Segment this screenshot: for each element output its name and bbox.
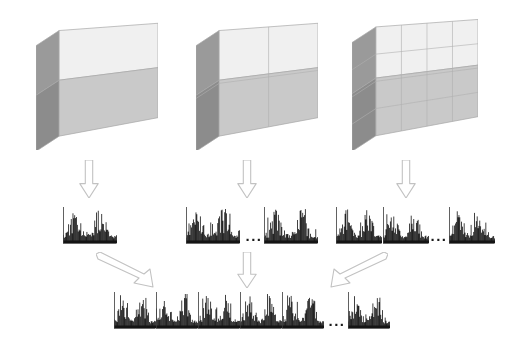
ellipsis-final: ...: [326, 313, 348, 328]
histogram-final-3: [198, 291, 240, 331]
histograms-layer: .........: [0, 0, 509, 343]
histogram-final-5: [282, 291, 324, 331]
histogram-final-1: [114, 291, 156, 331]
figure-canvas: .........: [0, 0, 509, 343]
histogram-final-n: [348, 291, 390, 331]
histogram-row-concatenated: ...: [0, 0, 509, 343]
histogram-final-4: [240, 291, 282, 331]
histogram-final-2: [156, 291, 198, 331]
